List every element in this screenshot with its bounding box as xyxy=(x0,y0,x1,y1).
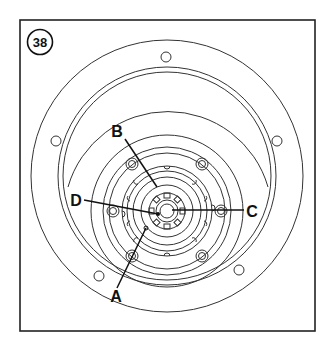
callout-b: B xyxy=(111,123,123,140)
hub-ring xyxy=(109,153,225,269)
bolt-hole-icon xyxy=(272,136,282,146)
flange-inner-ring xyxy=(58,67,276,285)
bolt-hole-icon xyxy=(161,52,171,62)
leader-b xyxy=(125,139,157,187)
flange-inner-ring-2 xyxy=(63,72,271,280)
hub-ring xyxy=(122,166,212,256)
hub-ring-outer xyxy=(91,135,243,287)
drawing-lines xyxy=(31,40,303,312)
bolt-hole-icon xyxy=(51,136,61,146)
axle-center xyxy=(160,204,174,218)
axle-ring xyxy=(156,200,178,222)
wheel-stud-icon xyxy=(126,158,138,170)
wheel-stud-icon xyxy=(196,158,208,170)
bolt-hole-icon xyxy=(234,265,244,275)
wheel-stud-icon xyxy=(196,250,208,262)
cover-arc xyxy=(68,112,268,187)
bolt-hole-icon xyxy=(94,271,104,281)
leader-d xyxy=(84,200,158,214)
callout-c: C xyxy=(246,203,258,220)
callout-d: D xyxy=(70,192,82,209)
callout-a: A xyxy=(110,288,122,305)
spline-teeth xyxy=(149,193,185,229)
step-number: 38 xyxy=(33,35,47,50)
exploded-hub-diagram: 38 xyxy=(0,0,332,352)
leader-d-dot xyxy=(156,212,160,216)
step-badge: 38 xyxy=(28,30,53,55)
